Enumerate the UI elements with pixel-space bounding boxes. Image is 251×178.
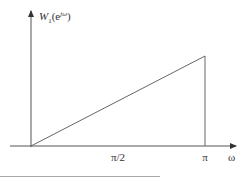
x-axis-label: ω: [228, 151, 235, 163]
series-line-0: [31, 56, 205, 146]
x-tick-label: π/2: [111, 151, 125, 163]
x-tick-label: π: [202, 151, 208, 163]
y-axis-label: W1(ejω): [39, 10, 71, 25]
chart: π/2π W1(ejω) ω: [0, 0, 251, 178]
